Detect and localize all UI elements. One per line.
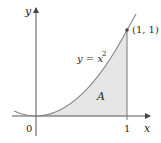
origin-label: 0 xyxy=(26,123,32,134)
curve-equation-label: y = x xyxy=(76,53,103,64)
x-tick-1-label: 1 xyxy=(124,123,130,134)
x-axis-label: x xyxy=(144,122,151,135)
curve-equation-exponent: 2 xyxy=(102,50,106,58)
point-label: (1, 1) xyxy=(132,24,159,35)
y-axis-label: y xyxy=(24,5,32,18)
region-a-shading xyxy=(36,30,127,116)
point-1-1-marker xyxy=(125,28,129,32)
area-under-parabola-diagram: y x 0 1 (1, 1) y = x 2 A xyxy=(0,0,161,143)
region-a-label: A xyxy=(96,90,105,103)
